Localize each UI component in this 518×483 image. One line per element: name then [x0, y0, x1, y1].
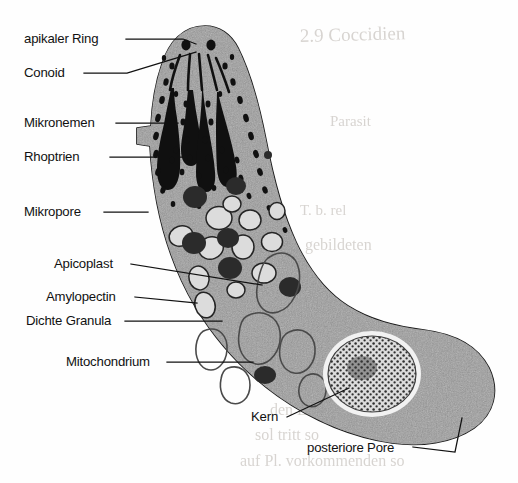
- figure-canvas: 2.9 Coccidien Parasit T. b. rel gebildet…: [0, 0, 518, 483]
- microneme: [209, 119, 214, 126]
- dense-granule: [218, 257, 242, 279]
- label-mikronemen: Mikronemen: [24, 115, 95, 130]
- amylopectin-granule: [223, 196, 241, 212]
- microneme: [184, 101, 189, 108]
- microneme: [185, 137, 190, 144]
- amylopectin-granule: [239, 210, 261, 230]
- dense-granule: [264, 151, 272, 159]
- zoite-diagram: 2.9 Coccidien Parasit T. b. rel gebildet…: [0, 0, 518, 483]
- ghost-line: Parasit: [330, 113, 372, 129]
- microneme: [206, 155, 211, 161]
- label-apicoplast: Apicoplast: [54, 256, 113, 271]
- label-mikropore: Mikropore: [24, 204, 81, 219]
- microneme: [171, 201, 176, 207]
- ghost-line: 2.9 Coccidien: [300, 22, 407, 46]
- label-mitochondrium: Mitochondrium: [66, 354, 150, 369]
- ghost-line: gebildeten: [305, 236, 372, 254]
- microneme: [174, 147, 179, 153]
- label-posteriore-pore: posteriore Pore: [307, 440, 394, 455]
- leader-amylopectin: [135, 297, 197, 303]
- dense-granule: [226, 177, 246, 195]
- label-rhoptrien: Rhoptrien: [24, 149, 79, 164]
- microneme: [188, 155, 193, 161]
- microneme: [222, 62, 227, 69]
- label-dichte-granula: Dichte Granula: [26, 313, 112, 328]
- amylopectin-granule: [252, 263, 276, 283]
- microneme: [220, 147, 225, 153]
- microneme: [212, 185, 217, 191]
- dense-granule: [217, 228, 239, 248]
- dense-granule: [254, 366, 276, 384]
- microneme: [162, 55, 166, 61]
- microneme: [197, 173, 202, 179]
- microneme: [174, 91, 178, 97]
- dense-granule: [182, 232, 206, 254]
- microneme: [218, 91, 222, 97]
- ghost-line: T. b. rel: [300, 202, 346, 218]
- nucleolus: [347, 356, 377, 380]
- microneme: [206, 101, 211, 108]
- label-apikaler-ring: apikaler Ring: [24, 31, 98, 46]
- amylopectin-granule: [269, 203, 285, 220]
- microneme: [203, 137, 208, 144]
- microneme: [230, 54, 234, 60]
- amylopectin-granule: [262, 233, 283, 252]
- dense-granule: [183, 186, 207, 208]
- microneme: [169, 62, 174, 69]
- label-kern: Kern: [251, 409, 278, 424]
- amylopectin-granule: [227, 282, 245, 298]
- microneme: [224, 167, 229, 173]
- mitochondrion-profile: [220, 367, 250, 404]
- label-amylopectin: Amylopectin: [46, 289, 116, 304]
- microneme: [181, 119, 186, 126]
- apical-ring-icon: [206, 40, 215, 51]
- label-conoid: Conoid: [24, 65, 65, 80]
- nucleus-group: [323, 331, 421, 417]
- microneme: [170, 157, 175, 163]
- microneme: [180, 169, 185, 175]
